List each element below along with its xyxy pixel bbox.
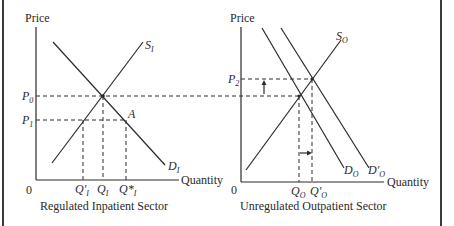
q-prime-i-label: Q′I	[75, 182, 89, 198]
p1-label: P1	[21, 113, 33, 129]
supply-demand-diagram: Price Quantity 0 Regulated Inpatient Sec…	[0, 0, 454, 226]
right-shifted-demand-curve	[281, 28, 369, 168]
p2-label: P2	[227, 72, 239, 88]
d-i-label: DI	[167, 159, 180, 175]
left-equilibrium-point	[101, 94, 105, 98]
right-y-axis-label: Price	[230, 11, 255, 25]
q-prime-o-label: Q′O	[310, 184, 327, 200]
s-i-label: SI	[145, 38, 154, 54]
right-origin-label: 0	[231, 183, 237, 197]
right-caption: Unregulated Outpatient Sector	[240, 199, 387, 213]
right-x-axis-label: Quantity	[387, 175, 429, 189]
left-y-axis-label: Price	[25, 11, 50, 25]
right-demand-curve	[262, 28, 344, 168]
point-a-label: A	[127, 107, 136, 121]
up-arrowhead-icon	[262, 80, 267, 85]
right-new-equilibrium-point	[310, 77, 313, 80]
right-equilibrium-point	[297, 94, 300, 97]
left-demand-curve	[53, 42, 165, 165]
right-arrowhead-icon	[307, 151, 312, 156]
p0-label: P0	[21, 89, 33, 105]
left-x-axis-label: Quantity	[181, 173, 223, 187]
q-i-label: QI	[97, 182, 109, 198]
d-o-label: DO	[343, 163, 359, 179]
right-supply-curve	[246, 40, 341, 170]
left-caption: Regulated Inpatient Sector	[40, 199, 168, 213]
left-origin-label: 0	[26, 183, 32, 197]
left-supply-curve	[52, 42, 143, 163]
s-o-label: SO	[336, 29, 348, 45]
q-star-i-label: Q*I	[119, 182, 137, 198]
d-prime-o-label: D′O	[367, 163, 385, 179]
q-o-label: QO	[291, 184, 306, 200]
